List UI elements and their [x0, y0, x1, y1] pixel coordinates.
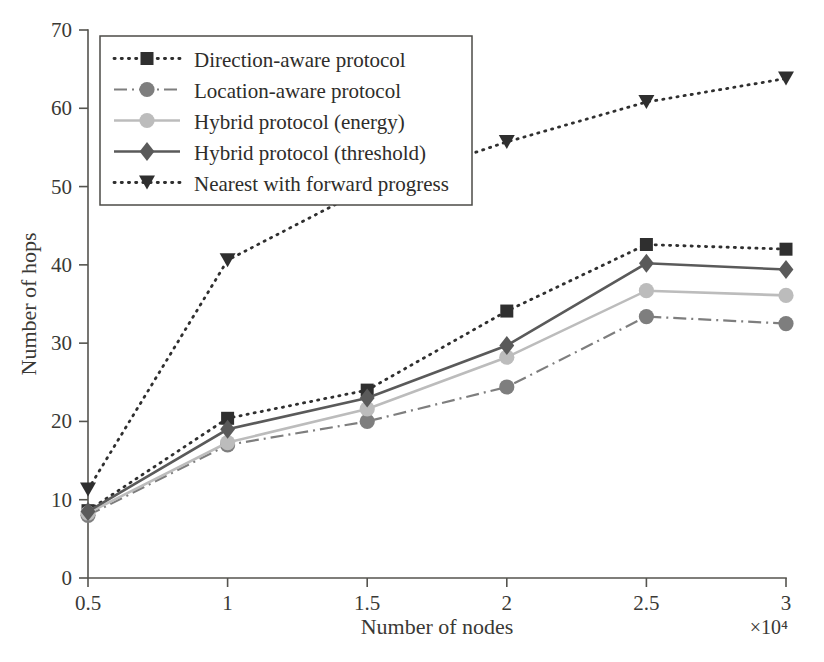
y-tick-label: 70 [51, 18, 72, 42]
series-marker [220, 253, 236, 267]
series-marker [499, 135, 515, 149]
series-1 [80, 309, 793, 523]
x-tick-label: 1 [222, 591, 233, 615]
series-marker [639, 283, 654, 298]
series-2 [80, 283, 793, 521]
series-marker [780, 243, 793, 256]
series-line [88, 245, 786, 511]
series-3 [81, 254, 794, 521]
chart-figure: 0102030405060700.511.522.53 Number of no… [0, 0, 824, 662]
line-chart-canvas: 0102030405060700.511.522.53 Number of no… [0, 0, 824, 662]
series-marker [778, 72, 794, 86]
y-tick-label: 60 [51, 96, 72, 120]
x-axis-multiplier: ×10⁴ [750, 616, 788, 638]
series-marker [639, 309, 654, 324]
series-0 [82, 238, 793, 517]
x-tick-label: 2.5 [633, 591, 659, 615]
y-tick-label: 0 [62, 566, 73, 590]
series-marker [80, 483, 96, 497]
series-line [88, 317, 786, 516]
legend[interactable]: Direction-aware protocolLocation-aware p… [100, 36, 472, 205]
legend-label: Hybrid protocol (energy) [194, 110, 405, 134]
y-tick-label: 40 [51, 253, 72, 277]
legend-label: Location-aware protocol [194, 79, 401, 103]
series-marker [499, 379, 514, 394]
legend-marker-square-icon [141, 52, 154, 65]
y-axis-title: Number of hops [16, 233, 41, 376]
x-tick-label: 3 [781, 591, 792, 615]
legend-label: Hybrid protocol (threshold) [194, 141, 426, 165]
series-marker [638, 95, 654, 109]
y-tick-label: 20 [51, 409, 72, 433]
x-tick-label: 2 [502, 591, 513, 615]
x-tick-label: 0.5 [75, 591, 101, 615]
legend-marker-circle-icon [139, 113, 154, 128]
legend-label: Direction-aware protocol [194, 48, 406, 72]
x-tick-label: 1.5 [354, 591, 380, 615]
series-line [88, 291, 786, 513]
y-tick-label: 50 [51, 175, 72, 199]
y-tick-label: 30 [51, 331, 72, 355]
series-marker [778, 316, 793, 331]
series-marker [639, 254, 654, 273]
legend-label: Nearest with forward progress [194, 172, 449, 196]
series-marker [778, 288, 793, 303]
series-marker [779, 260, 794, 279]
series-marker [500, 305, 513, 318]
series-marker [640, 238, 653, 251]
legend-marker-circle-icon [139, 82, 154, 97]
y-tick-label: 10 [51, 488, 72, 512]
x-axis-title: Number of nodes [361, 614, 514, 639]
series-line [88, 263, 786, 511]
